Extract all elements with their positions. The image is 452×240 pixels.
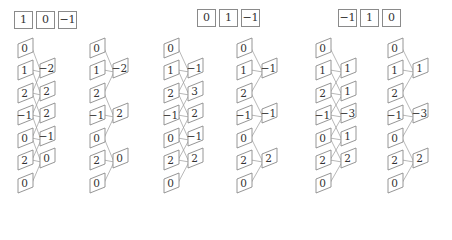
connection-line <box>104 162 114 183</box>
output-cell: −3 <box>340 103 356 123</box>
svg-text:−1: −1 <box>39 130 54 142</box>
input-cell: 2 <box>388 83 403 103</box>
svg-text:2: 2 <box>416 152 423 164</box>
svg-text:1: 1 <box>416 62 423 74</box>
connection-line <box>178 160 189 162</box>
connection-line <box>402 138 414 162</box>
output-cell: −1 <box>39 126 55 146</box>
svg-text:2: 2 <box>344 152 351 164</box>
svg-text:2: 2 <box>93 87 100 99</box>
input-cell: 0 <box>388 128 403 148</box>
svg-text:2: 2 <box>191 107 198 119</box>
connection-line <box>178 93 189 117</box>
svg-text:−1: −1 <box>187 62 202 74</box>
strided-output-cell: −1 <box>261 103 277 123</box>
svg-text:2: 2 <box>21 87 28 99</box>
svg-text:0: 0 <box>319 132 326 144</box>
output-cell: −2 <box>39 58 55 78</box>
strided-output-cell: 2 <box>113 103 128 123</box>
svg-text:2: 2 <box>240 154 247 166</box>
connection-line <box>402 160 414 162</box>
input-cell: 0 <box>388 38 403 58</box>
output-cell: 1 <box>341 58 356 78</box>
input-cell: 2 <box>316 83 331 103</box>
input-cell: 0 <box>90 173 105 193</box>
connection-line <box>251 160 263 162</box>
connection-line <box>402 162 414 183</box>
svg-text:−1: −1 <box>387 109 402 121</box>
svg-text:3: 3 <box>191 85 198 97</box>
svg-text:2: 2 <box>191 152 198 164</box>
input-cell: 2 <box>316 150 331 170</box>
input-cell: −1 <box>315 105 331 125</box>
svg-text:1: 1 <box>344 130 351 142</box>
input-cell: −1 <box>89 105 105 125</box>
svg-text:2: 2 <box>43 85 50 97</box>
svg-text:0: 0 <box>21 132 28 144</box>
input-cell: 0 <box>237 128 252 148</box>
input-cell: 0 <box>237 173 252 193</box>
svg-text:−1: −1 <box>261 107 276 119</box>
connection-line <box>330 93 342 95</box>
svg-text:−1: −1 <box>187 130 202 142</box>
output-cell: 2 <box>188 103 203 123</box>
svg-text:2: 2 <box>167 87 174 99</box>
input-cell: 0 <box>18 173 33 193</box>
svg-text:0: 0 <box>391 177 398 189</box>
svg-text:0: 0 <box>93 132 100 144</box>
svg-text:2: 2 <box>43 107 50 119</box>
svg-text:−2: −2 <box>112 62 127 74</box>
connection-line <box>178 162 189 183</box>
input-cell: 1 <box>18 60 33 80</box>
svg-text:1: 1 <box>391 64 398 76</box>
svg-text:−3: −3 <box>340 107 355 119</box>
svg-text:0: 0 <box>21 42 28 54</box>
input-cell: 1 <box>388 60 403 80</box>
svg-text:1: 1 <box>344 62 351 74</box>
input-cell: 2 <box>90 83 105 103</box>
connection-line <box>104 160 114 162</box>
strided-output-cell: 1 <box>413 58 428 78</box>
input-cell: 0 <box>316 173 331 193</box>
svg-text:−3: −3 <box>412 107 427 119</box>
svg-text:1: 1 <box>240 64 247 76</box>
input-cell: 1 <box>316 60 331 80</box>
connection-line <box>330 48 342 72</box>
input-cell: 2 <box>237 83 252 103</box>
svg-text:2: 2 <box>240 87 247 99</box>
svg-text:0: 0 <box>319 177 326 189</box>
input-cell: −1 <box>236 105 252 125</box>
strided-output-cell: −2 <box>112 58 128 78</box>
connection-line <box>402 70 414 72</box>
svg-text:2: 2 <box>319 87 326 99</box>
input-cell: 0 <box>388 173 403 193</box>
input-cell: 0 <box>316 38 331 58</box>
svg-text:0: 0 <box>43 152 50 164</box>
output-cell: 1 <box>341 81 356 101</box>
svg-text:0: 0 <box>167 177 174 189</box>
input-cell: 0 <box>316 128 331 148</box>
output-cell: 2 <box>188 148 203 168</box>
output-cell: 0 <box>40 148 55 168</box>
svg-text:0: 0 <box>167 132 174 144</box>
input-cell: 2 <box>18 83 33 103</box>
input-cell: 1 <box>164 60 179 80</box>
svg-text:2: 2 <box>93 154 100 166</box>
output-cell: 1 <box>341 126 356 146</box>
svg-text:2: 2 <box>116 107 123 119</box>
svg-text:1: 1 <box>167 64 174 76</box>
connection-line <box>251 117 263 138</box>
input-cell: 0 <box>90 38 105 58</box>
svg-text:0: 0 <box>319 42 326 54</box>
input-cell: 2 <box>164 83 179 103</box>
strided-output-cell: −1 <box>261 58 277 78</box>
strided-output-cell: 0 <box>113 148 128 168</box>
input-cell: 1 <box>237 60 252 80</box>
svg-text:0: 0 <box>391 42 398 54</box>
svg-text:0: 0 <box>167 42 174 54</box>
input-cell: −1 <box>387 105 403 125</box>
svg-text:−1: −1 <box>236 109 251 121</box>
svg-text:2: 2 <box>167 154 174 166</box>
connection-line <box>104 117 114 138</box>
svg-text:2: 2 <box>319 154 326 166</box>
